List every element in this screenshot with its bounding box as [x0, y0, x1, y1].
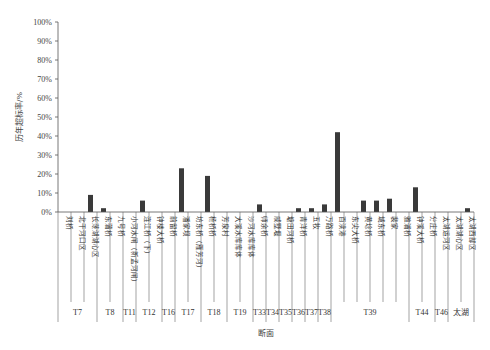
bar: [465, 208, 470, 212]
bar: [140, 201, 145, 212]
category-label: 钟溪大桥: [416, 216, 425, 244]
category-label: 塘田河桥: [286, 216, 295, 244]
bar: [374, 201, 379, 212]
bar: [309, 208, 314, 212]
x-axis: 刘桥北干河口区长荡湖湖心区东蒲桥九号桥小河水闸（新孟河闸）连江桥（下）钟楼大桥前…: [58, 212, 477, 322]
category-label: 师余桥: [260, 216, 269, 237]
bar: [257, 204, 262, 212]
group-label: T35: [279, 308, 292, 317]
category-label: 潘家坝: [182, 216, 191, 237]
category-label: 沙河水库库体: [247, 216, 256, 258]
category-label: 钟楼大桥: [156, 216, 165, 244]
category-label: 雅浦桥: [403, 216, 412, 237]
category-label: 长荡湖湖心区: [91, 216, 100, 258]
category-label: 东尖大桥: [351, 216, 360, 244]
group-label: T39: [364, 308, 377, 317]
category-label: 刘桥: [65, 216, 74, 230]
category-label: 城东桥: [377, 216, 386, 237]
group-label: T7: [73, 308, 82, 317]
category-label: 裴家: [390, 216, 399, 230]
y-tick-label: 40%: [37, 132, 52, 141]
bar: [322, 204, 327, 212]
category-label: 青洋桥: [299, 216, 308, 237]
category-label: 杨桥桥: [208, 216, 217, 237]
y-tick-label: 70%: [37, 75, 52, 84]
y-tick-label: 80%: [37, 56, 52, 65]
category-label: 太湖湖心区: [455, 216, 464, 251]
category-label: 戚墅堰: [273, 216, 282, 237]
group-label: 太湖: [453, 307, 469, 317]
group-label: T37: [305, 308, 318, 317]
y-tick-label: 10%: [37, 189, 52, 198]
group-label: T8: [106, 308, 115, 317]
category-label: 九号桥: [117, 216, 126, 237]
bar-chart: 0%10%20%30%40%50%60%70%80%90%100% 刘桥北干河口…: [0, 0, 490, 350]
y-tick-label: 30%: [37, 151, 52, 160]
group-label: T38: [318, 308, 331, 317]
y-tick-label: 50%: [37, 113, 52, 122]
group-label: T19: [234, 308, 247, 317]
category-label: 前留桥: [169, 216, 178, 237]
category-label: 分庄桥: [429, 216, 438, 237]
category-label: 小河水闸（新孟河闸）: [130, 216, 139, 286]
group-label: T11: [123, 308, 136, 317]
group-label: T18: [208, 308, 221, 317]
category-label: 太湖运河区: [442, 216, 451, 251]
bar: [335, 132, 340, 212]
x-axis-label: 断面: [258, 328, 274, 338]
group-label: T33: [253, 308, 266, 317]
bar: [361, 201, 366, 212]
bar: [179, 168, 184, 212]
category-label: 黄埝桥: [364, 216, 373, 237]
category-label: 芳泉村: [221, 216, 230, 237]
y-tick-label: 20%: [37, 170, 52, 179]
y-axis: 0%10%20%30%40%50%60%70%80%90%100%: [33, 18, 58, 217]
bar: [387, 199, 392, 212]
category-label: 坊东桥（雁芳河）: [195, 216, 204, 272]
group-label: T16: [162, 308, 175, 317]
category-label: 五牧: [312, 216, 321, 230]
category-label: 东蒲桥: [104, 216, 113, 237]
category-label: 万路桥: [325, 216, 334, 237]
category-label: 百渎港: [338, 216, 347, 237]
category-label: 大溪水库库体: [234, 216, 243, 258]
y-axis-label: 历年超标率/%: [14, 91, 24, 142]
bar: [296, 208, 301, 212]
category-label: 北干河口区: [78, 216, 86, 251]
group-label: T12: [143, 308, 156, 317]
group-label: T36: [292, 308, 305, 317]
bar: [413, 187, 418, 212]
y-tick-label: 60%: [37, 94, 52, 103]
bar: [88, 195, 93, 212]
group-label: T34: [266, 308, 279, 317]
y-tick-label: 100%: [33, 18, 52, 27]
y-tick-label: 0%: [41, 208, 52, 217]
bar: [101, 208, 106, 212]
group-label: T44: [416, 308, 429, 317]
bar: [205, 176, 210, 212]
category-label: 太湖西部区: [468, 216, 477, 251]
group-label: T17: [182, 308, 195, 317]
y-tick-label: 90%: [37, 37, 52, 46]
group-label: T46: [435, 308, 448, 317]
category-label: 连江桥（下）: [143, 216, 152, 258]
bars: [88, 132, 470, 212]
